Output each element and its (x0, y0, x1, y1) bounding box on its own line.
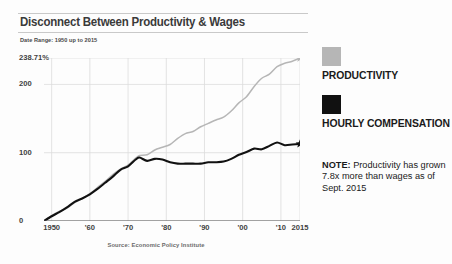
chart-title: Disconnect Between Productivity & Wages (20, 15, 290, 29)
chart-panel: Disconnect Between Productivity & Wages … (0, 0, 312, 264)
y-axis-tick-label: 100 (19, 148, 32, 157)
legend-note-prefix: NOTE: (322, 160, 351, 170)
source-note: Source: Economic Policy Institute (0, 242, 312, 248)
legend-swatch-productivity (322, 47, 341, 66)
date-range-subtitle: Date Range: 1950 up to 2015 (20, 37, 97, 43)
series-lines (44, 58, 300, 221)
legend-swatch-hourly-compensation (322, 95, 341, 114)
legend-panel: PRODUCTIVITY HOURLY COMPENSATION NOTE: P… (318, 0, 452, 264)
chart-plot-svg (44, 58, 300, 221)
x-axis-tick-label: '90 (199, 223, 209, 232)
y-axis-labels: 0100200238.71% (0, 58, 44, 221)
legend-label-productivity: PRODUCTIVITY (322, 70, 398, 82)
plot-area (44, 58, 300, 221)
title-rule-bottom (18, 32, 308, 33)
x-axis-tick-label: '70 (123, 223, 133, 232)
title-rule-top (18, 13, 308, 14)
x-axis-tick-label: '80 (161, 223, 171, 232)
grid-lines (44, 58, 300, 221)
series-line-hourly-compensation (44, 142, 300, 221)
x-axis-tick-label: 1950 (43, 223, 60, 232)
endpoint-markers (296, 58, 300, 148)
y-axis-tick-label: 0 (19, 216, 23, 225)
series-line-productivity (44, 58, 300, 221)
x-axis-tick-label: '10 (276, 223, 286, 232)
legend-note: NOTE: Productivity has grown 7.8x more t… (322, 160, 448, 194)
chart-screenshot: Disconnect Between Productivity & Wages … (0, 0, 452, 264)
legend-label-hourly-compensation: HOURLY COMPENSATION (322, 118, 450, 130)
y-axis-tick-label: 200 (19, 79, 32, 88)
x-axis-tick-label: '00 (238, 223, 248, 232)
x-axis-labels: 1950'60'70'80'90'00'102015 (44, 223, 300, 237)
x-axis-tick-label: '60 (85, 223, 95, 232)
x-axis-tick-label: 2015 (292, 223, 309, 232)
